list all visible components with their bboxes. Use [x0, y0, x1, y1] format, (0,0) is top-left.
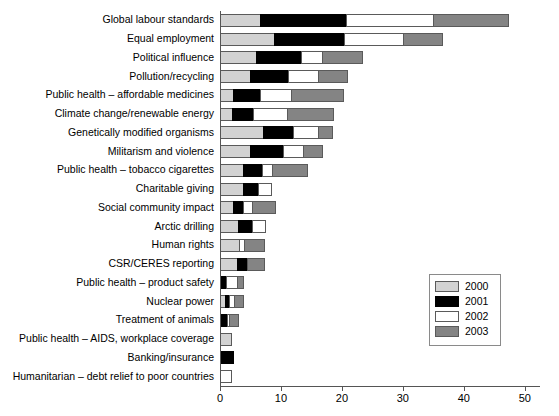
bar-segment-2003	[322, 51, 363, 64]
category-label: Humanitarian – debt relief to poor count…	[0, 370, 214, 382]
category-label: Treatment of animals	[0, 313, 214, 325]
x-tick	[464, 386, 465, 391]
legend-label-2002: 2002	[465, 311, 488, 322]
x-tick	[342, 386, 343, 391]
bar-segment-2003	[291, 89, 344, 102]
legend-swatch-2000	[435, 281, 459, 292]
category-axis-labels: Global labour standardsEqual employmentP…	[0, 11, 214, 386]
legend-label-2001: 2001	[465, 296, 488, 307]
bar-row	[220, 70, 348, 83]
bar-segment-2002	[220, 370, 232, 383]
bar-segment-2003	[272, 164, 308, 177]
stacked-bar-chart: Global labour standardsEqual employmentP…	[0, 0, 559, 416]
x-tick	[403, 386, 404, 391]
bar-segment-2001	[263, 126, 294, 139]
x-tick-label: 10	[275, 392, 287, 404]
category-label: Equal employment	[0, 32, 214, 44]
bar-segment-2003	[318, 126, 333, 139]
bar-row	[220, 239, 265, 252]
bar-segment-2000	[220, 201, 234, 214]
bar-segment-2001	[220, 351, 234, 364]
bar-row	[220, 370, 232, 383]
bar-segment-2003	[287, 108, 334, 121]
category-label: Global labour standards	[0, 13, 214, 25]
x-tick-label: 40	[458, 392, 470, 404]
bar-row	[220, 51, 363, 64]
bar-segment-2003	[433, 14, 509, 27]
bar-segment-2000	[220, 333, 232, 346]
legend-item-2003: 2003	[435, 324, 495, 339]
bar-row	[220, 220, 266, 233]
category-label: Human rights	[0, 238, 214, 250]
category-label: Arctic drilling	[0, 220, 214, 232]
category-label: Banking/insurance	[0, 351, 214, 363]
bar-segment-2003	[252, 201, 276, 214]
legend-item-2002: 2002	[435, 309, 495, 324]
bar-segment-2000	[220, 14, 261, 27]
bar-row	[220, 126, 333, 139]
bar-segment-2000	[220, 126, 264, 139]
category-label: Political influence	[0, 51, 214, 63]
legend-item-2001: 2001	[435, 294, 495, 309]
bar-segment-2000	[220, 220, 239, 233]
bar-segment-2001	[256, 51, 302, 64]
bar-segment-2001	[233, 89, 261, 102]
x-tick	[220, 386, 221, 391]
bar-row	[220, 295, 244, 308]
legend: 2000 2001 2002 2003	[429, 274, 501, 346]
bar-segment-2002	[346, 14, 435, 27]
bar-row	[220, 333, 232, 346]
bar-segment-2000	[220, 258, 238, 271]
bar-row	[220, 258, 265, 271]
x-tick	[281, 386, 282, 391]
bar-segment-2001	[274, 33, 345, 46]
legend-item-2000: 2000	[435, 279, 495, 294]
bar-segment-2001	[243, 164, 263, 177]
category-label: Public health – product safety	[0, 276, 214, 288]
bar-row	[220, 108, 334, 121]
bar-segment-2003	[237, 276, 244, 289]
bar-segment-2002	[253, 108, 288, 121]
bar-segment-2000	[220, 145, 251, 158]
bar-segment-2003	[244, 239, 265, 252]
bar-row	[220, 33, 443, 46]
bar-segment-2002	[260, 89, 293, 102]
bar-segment-2000	[220, 33, 275, 46]
x-axis-line	[220, 386, 540, 387]
bar-segment-2003	[318, 70, 349, 83]
value-axis-line	[220, 11, 221, 386]
bar-row	[220, 14, 509, 27]
bar-segment-2002	[283, 145, 305, 158]
category-label: Social community impact	[0, 201, 214, 213]
x-tick-label: 30	[397, 392, 409, 404]
category-label: Public health – tobacco cigarettes	[0, 163, 214, 175]
x-tick-label: 20	[336, 392, 348, 404]
bar-segment-2001	[243, 183, 259, 196]
bar-row	[220, 89, 344, 102]
bar-segment-2000	[220, 239, 240, 252]
legend-label-2003: 2003	[465, 326, 488, 337]
category-label: Charitable giving	[0, 182, 214, 194]
bar-row	[220, 164, 308, 177]
bar-segment-2002	[288, 70, 319, 83]
bar-row	[220, 183, 272, 196]
category-label: Nuclear power	[0, 295, 214, 307]
category-label: Public health – AIDS, workplace coverage	[0, 332, 214, 344]
bar-row	[220, 314, 239, 327]
bar-segment-2002	[344, 33, 404, 46]
legend-label-2000: 2000	[465, 281, 488, 292]
bar-segment-2002	[293, 126, 319, 139]
bar-segment-2000	[220, 164, 244, 177]
bar-row	[220, 201, 276, 214]
bar-segment-2003	[403, 33, 443, 46]
category-label: Pollution/recycling	[0, 70, 214, 82]
bar-segment-2001	[260, 14, 346, 27]
bar-segment-2002	[258, 183, 271, 196]
legend-swatch-2002	[435, 311, 459, 322]
bar-segment-2003	[247, 258, 265, 271]
bar-segment-2000	[220, 70, 251, 83]
bar-segment-2002	[301, 51, 323, 64]
bar-segment-2001	[250, 145, 284, 158]
bar-segment-2003	[303, 145, 322, 158]
bar-segment-2002	[252, 220, 266, 233]
